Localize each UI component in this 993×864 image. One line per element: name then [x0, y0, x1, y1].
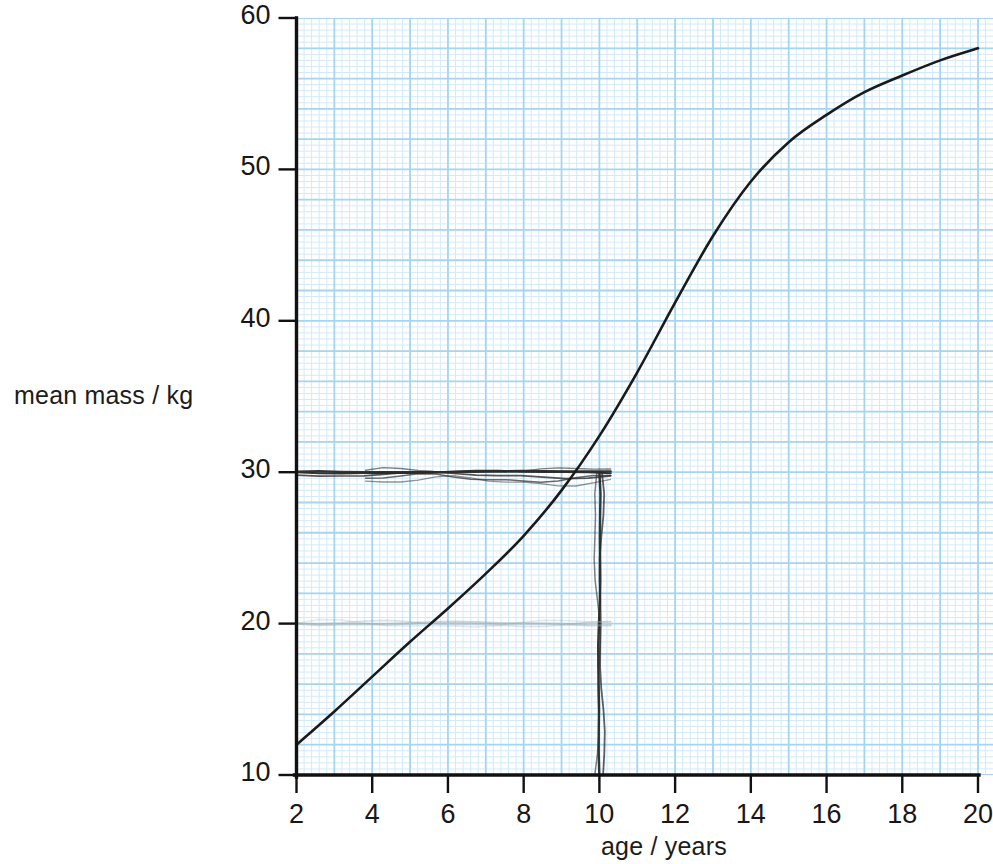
x-tick-label: 18: [878, 799, 926, 830]
y-tick-label: 60: [211, 0, 271, 31]
y-tick-label: 10: [211, 757, 271, 788]
y-axis-title: mean mass / kg: [14, 381, 193, 410]
x-tick-label: 20: [954, 799, 993, 830]
x-tick-label: 4: [348, 799, 396, 830]
x-tick-label: 8: [500, 799, 548, 830]
x-tick-label: 14: [727, 799, 775, 830]
x-tick-label: 2: [273, 799, 321, 830]
x-tick-label: 16: [803, 799, 851, 830]
y-tick-label: 30: [211, 454, 271, 485]
y-tick-label: 50: [211, 151, 271, 182]
y-tick-label: 20: [211, 606, 271, 637]
x-axis-title: age / years: [601, 832, 727, 861]
x-tick-label: 12: [651, 799, 699, 830]
x-tick-label: 10: [575, 799, 623, 830]
y-tick-label: 40: [211, 303, 271, 334]
x-tick-label: 6: [424, 799, 472, 830]
chart-canvas: [0, 0, 993, 864]
graph-figure: mean mass / kg age / years 102030405060 …: [0, 0, 993, 864]
